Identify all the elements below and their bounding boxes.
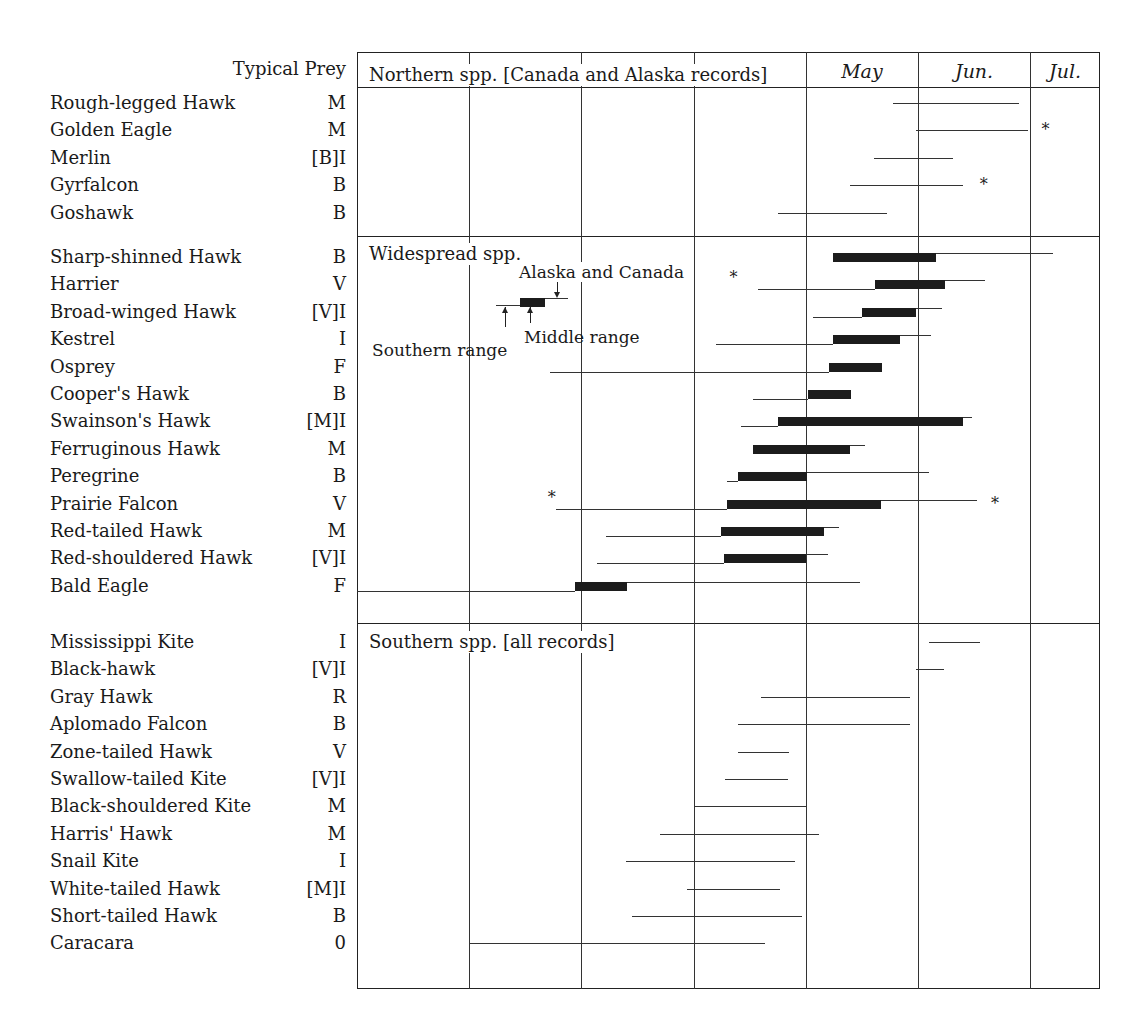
- middle-range-bar: [753, 445, 849, 454]
- typical-prey-code: B: [250, 246, 346, 268]
- species-name: Aplomado Falcon: [50, 713, 207, 735]
- southern-range-line: [929, 642, 979, 643]
- species-name: Sharp-shinned Hawk: [50, 246, 241, 268]
- northern-range-line: [850, 185, 963, 186]
- southern-range-line: [916, 669, 944, 670]
- middle-range-bar: [829, 363, 882, 372]
- typical-prey-code: 0: [250, 932, 346, 954]
- typical-prey-code: [V]I: [250, 658, 346, 680]
- southern-range-line: [694, 806, 806, 807]
- typical-prey-code: V: [250, 273, 346, 295]
- species-name: Merlin: [50, 147, 111, 169]
- section-label: Northern spp. [Canada and Alaska records…: [369, 64, 769, 86]
- southern-range-line: [606, 536, 720, 537]
- alaska-canada-arrow-head: [554, 292, 560, 298]
- southern-range-line: [469, 943, 765, 944]
- southern-range-line: [813, 317, 862, 318]
- month-gridline: [469, 52, 470, 989]
- southern-range-line: [741, 426, 778, 427]
- month-gridline: [694, 52, 695, 989]
- species-name: Mississippi Kite: [50, 631, 194, 653]
- species-name: Zone-tailed Hawk: [50, 741, 212, 763]
- legend-southern-range-label: Southern range: [372, 340, 507, 360]
- species-name: Red-shouldered Hawk: [50, 547, 252, 569]
- species-name: Caracara: [50, 932, 134, 954]
- middle-range-bar: [724, 554, 806, 563]
- species-name: Peregrine: [50, 465, 139, 487]
- species-name: Swainson's Hawk: [50, 410, 210, 432]
- middle-range-bar: [862, 308, 916, 317]
- northern-range-line: [916, 130, 1028, 131]
- outlier-asterisk: *: [1041, 122, 1049, 138]
- typical-prey-code: [V]I: [250, 547, 346, 569]
- typical-prey-code: B: [250, 905, 346, 927]
- species-name: Gray Hawk: [50, 686, 152, 708]
- typical-prey-code: B: [250, 465, 346, 487]
- northern-range-line: [936, 253, 1053, 254]
- outlier-asterisk: *: [548, 490, 556, 506]
- typical-prey-code: I: [250, 328, 346, 350]
- typical-prey-code: M: [250, 438, 346, 460]
- species-name: White-tailed Hawk: [50, 878, 220, 900]
- typical-prey-code: I: [250, 631, 346, 653]
- month-gridline: [806, 52, 807, 989]
- southern-range-line: [727, 481, 738, 482]
- southern-range-line: [716, 344, 833, 345]
- middle-range-bar: [738, 472, 806, 481]
- outlier-asterisk: *: [991, 496, 999, 512]
- southern-range-line: [761, 697, 910, 698]
- species-name: Goshawk: [50, 202, 133, 224]
- typical-prey-code: M: [250, 823, 346, 845]
- northern-range-line: [778, 213, 887, 214]
- southern-range-line: [357, 591, 575, 592]
- northern-range-line: [806, 554, 828, 555]
- typical-prey-code: F: [250, 575, 346, 597]
- legend-southern-line: [496, 305, 520, 306]
- southern-range-line: [632, 916, 803, 917]
- species-name: Snail Kite: [50, 850, 139, 872]
- typical-prey-code: B: [250, 713, 346, 735]
- southern-range-line: [687, 889, 780, 890]
- species-name: Harrier: [50, 273, 119, 295]
- middle-range-bar: [808, 390, 851, 399]
- typical-prey-code: M: [250, 795, 346, 817]
- species-name: Prairie Falcon: [50, 493, 178, 515]
- month-gridline: [918, 52, 919, 989]
- southern-range-line: [660, 834, 819, 835]
- species-name: Golden Eagle: [50, 119, 172, 141]
- section-label: Southern spp. [all records]: [369, 631, 616, 653]
- legend-northern-line: [545, 298, 567, 299]
- northern-range-line: [900, 335, 931, 336]
- typical-prey-code: B: [250, 202, 346, 224]
- middle-range-bar: [778, 417, 963, 426]
- southern-range-line: [550, 372, 829, 373]
- species-name: Swallow-tailed Kite: [50, 768, 227, 790]
- month-gridline: [1030, 52, 1031, 989]
- northern-range-line: [893, 103, 1019, 104]
- typical-prey-code: [V]I: [250, 768, 346, 790]
- southern-range-line: [556, 509, 728, 510]
- species-name: Harris' Hawk: [50, 823, 172, 845]
- species-name: Red-tailed Hawk: [50, 520, 202, 542]
- typical-prey-header: Typical Prey: [150, 56, 346, 82]
- typical-prey-code: F: [250, 356, 346, 378]
- middle-range-bar: [833, 253, 936, 262]
- outlier-asterisk: *: [730, 270, 738, 286]
- species-name: Broad-winged Hawk: [50, 301, 236, 323]
- typical-prey-code: [M]I: [250, 878, 346, 900]
- southern-range-line: [758, 289, 876, 290]
- species-name: Gyrfalcon: [50, 174, 139, 196]
- species-name: Bald Eagle: [50, 575, 149, 597]
- middle-range-bar: [875, 280, 945, 289]
- southern-range-arrow-head: [502, 307, 508, 313]
- section-label: Widespread spp.: [369, 243, 523, 265]
- middle-range-bar: [575, 582, 628, 591]
- northern-range-line: [945, 280, 985, 281]
- typical-prey-code: [B]I: [250, 147, 346, 169]
- species-name: Kestrel: [50, 328, 115, 350]
- legend-alaska-canada-label: Alaska and Canada: [519, 262, 684, 282]
- species-name: Cooper's Hawk: [50, 383, 189, 405]
- species-name: Black-shouldered Kite: [50, 795, 251, 817]
- species-name: Black-hawk: [50, 658, 155, 680]
- northern-range-line: [807, 472, 929, 473]
